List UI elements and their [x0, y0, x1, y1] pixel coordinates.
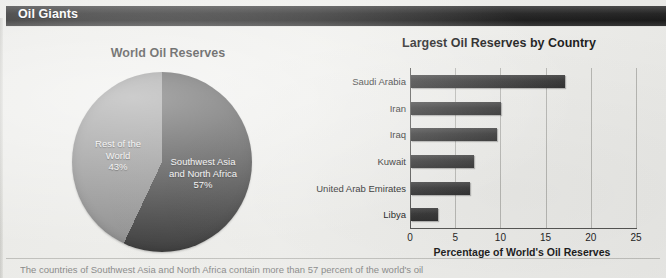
category-label-kuwait: Kuwait — [377, 156, 406, 167]
figure-title: Oil Giants — [18, 7, 78, 21]
page-left-edge — [0, 18, 3, 278]
bar-united-arab-emirates — [411, 182, 470, 195]
gridline-15 — [546, 68, 547, 228]
pie-chart-title: World Oil Reserves — [8, 46, 328, 60]
bar-saudi-arabia — [411, 75, 565, 88]
gridline-20 — [591, 68, 592, 228]
figure-caption: The countries of Southwest Asia and Nort… — [20, 264, 650, 276]
pie-slice-label-southwest-asia-north-africa: Southwest Asia and North Africa 57% — [160, 156, 246, 191]
category-label-saudi-arabia: Saudi Arabia — [352, 76, 406, 87]
pie-slice-swa-line2: and North Africa — [160, 168, 246, 180]
gridline-5 — [455, 68, 456, 228]
bar-chart-plot-area — [410, 68, 636, 228]
bar-iran — [411, 102, 501, 115]
x-tick-20: 20 — [576, 232, 606, 243]
category-label-iraq: Iraq — [390, 129, 406, 140]
x-tick-5: 5 — [440, 232, 470, 243]
bar-chart-category-labels: Saudi ArabiaIranIraqKuwaitUnited Arab Em… — [332, 68, 406, 228]
bar-iraq — [411, 128, 497, 141]
bar-chart-panel: Largest Oil Reserves by Country Saudi Ar… — [332, 30, 666, 255]
x-axis-line — [410, 228, 637, 229]
gridline-10 — [500, 68, 501, 228]
pie-chart-graphic: Rest of the World 43% Southwest Asia and… — [72, 72, 252, 252]
caption-divider — [6, 258, 660, 259]
category-label-united-arab-emirates: United Arab Emirates — [316, 183, 406, 194]
x-axis-tick-labels: 0510152025 — [410, 232, 640, 246]
pie-slice-swa-percent: 57% — [160, 179, 246, 191]
pie-slice-rest-line2: World — [80, 150, 156, 162]
bar-kuwait — [411, 155, 474, 168]
gridline-25 — [636, 68, 637, 228]
pie-slice-rest-line1: Rest of the — [80, 138, 156, 150]
oil-giants-figure: Oil Giants World Oil Reserves Rest of th… — [0, 0, 666, 278]
x-tick-0: 0 — [395, 232, 425, 243]
pie-chart-panel: World Oil Reserves Rest of the World 43%… — [8, 30, 328, 252]
pie-slice-swa-line1: Southwest Asia — [160, 156, 246, 168]
category-label-iran: Iran — [390, 103, 406, 114]
pie-slice-label-rest-of-world: Rest of the World 43% — [80, 138, 156, 173]
pie-slice-rest-percent: 43% — [80, 161, 156, 173]
category-label-libya: Libya — [383, 209, 406, 220]
x-axis-title: Percentage of World's Oil Reserves — [392, 246, 652, 258]
x-tick-10: 10 — [485, 232, 515, 243]
bar-chart-title: Largest Oil Reserves by Country — [332, 36, 666, 50]
figure-title-bar — [6, 6, 666, 26]
y-axis-line — [410, 68, 411, 229]
x-tick-25: 25 — [621, 232, 651, 243]
x-tick-15: 15 — [531, 232, 561, 243]
bar-libya — [411, 208, 438, 221]
